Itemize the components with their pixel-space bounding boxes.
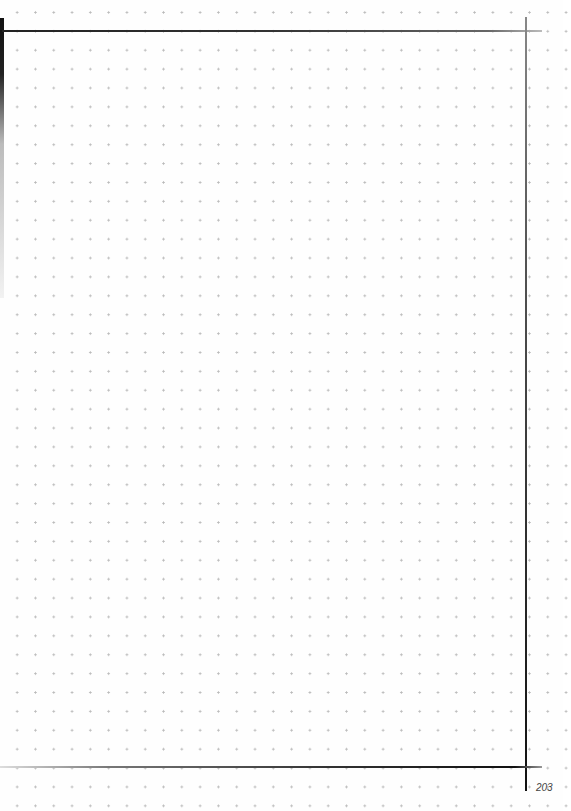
top-border-line bbox=[2, 30, 542, 32]
right-margin-line bbox=[525, 17, 527, 791]
bottom-border-line bbox=[0, 766, 542, 768]
dot-grid bbox=[8, 3, 571, 811]
page-number: 203 bbox=[536, 782, 553, 793]
binding-edge bbox=[0, 18, 4, 298]
